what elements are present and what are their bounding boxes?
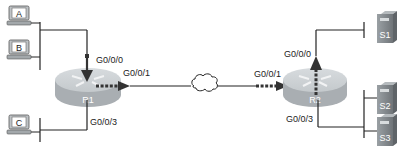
network-diagram: A B G0/0/0 R1 G0/0/1 — [0, 0, 406, 150]
r1-g001-label: G0/0/1 — [123, 68, 150, 78]
host-a[interactable]: A — [7, 6, 40, 25]
server-s3[interactable]: S3 — [377, 114, 397, 146]
host-a-label: A — [16, 9, 22, 19]
host-b[interactable]: B — [7, 40, 40, 59]
router-r1-label: R1 — [82, 95, 94, 105]
host-b-label: B — [16, 43, 22, 53]
host-c-label: C — [16, 118, 23, 128]
pc-icon — [7, 40, 40, 59]
lan-segment-ab — [40, 22, 87, 70]
cloud-icon — [192, 74, 218, 91]
server-s1[interactable]: S1 — [377, 11, 397, 43]
r2-g000-label: G0/0/0 — [284, 49, 311, 59]
lan-segment-s1 — [316, 22, 364, 56]
pc-icon — [7, 6, 40, 25]
host-c[interactable]: C — [7, 115, 40, 134]
server-s1-label: S1 — [379, 30, 390, 40]
pc-icon — [7, 115, 40, 134]
server-s2-label: S2 — [379, 101, 390, 111]
r2-g003-label: G0/0/3 — [286, 114, 313, 124]
server-s3-label: S3 — [379, 133, 390, 143]
router-r2-label: R2 — [309, 95, 321, 105]
r1-g003-label: G0/0/3 — [90, 117, 117, 127]
r1-g000-label: G0/0/0 — [96, 55, 123, 65]
server-s2[interactable]: S2 — [377, 82, 397, 114]
r2-g001-label: G0/0/1 — [254, 69, 281, 79]
